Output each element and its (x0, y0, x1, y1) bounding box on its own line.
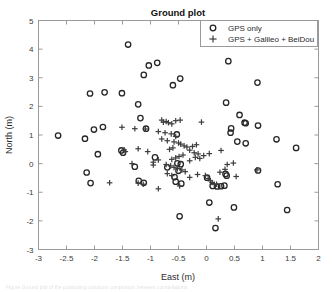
y-tick-label: -3 (26, 246, 34, 255)
x-tick-label: -2 (91, 254, 99, 263)
legend[interactable]: GPS only GPS + Galileo + BeiDou (201, 21, 318, 47)
y-tick-label: 2 (29, 102, 34, 111)
x-tick-label: -3 (35, 254, 43, 263)
x-tick-label: -1 (147, 254, 155, 263)
ground-plot-chart: Ground plot -3-2.5-2-1.5-1-0.500.511.52 … (0, 0, 333, 292)
y-tick-label: 1 (29, 131, 34, 140)
figure-caption-fragment: Figure Ground plot of the positioning so… (6, 284, 324, 290)
y-tick-label: -1 (26, 188, 34, 197)
x-tick-label: 1 (260, 254, 265, 263)
x-tick-label: 2 (316, 254, 321, 263)
x-tick-label: 0.5 (229, 254, 241, 263)
x-tick-label: -1.5 (116, 254, 130, 263)
page-title: Ground plot (151, 7, 206, 18)
x-tick-label: -2.5 (60, 254, 74, 263)
x-tick-label: 1.5 (285, 254, 297, 263)
legend-label: GPS + Galileo + BeiDou (228, 35, 314, 44)
y-tick-label: 0 (29, 160, 34, 169)
y-tick-label: 5 (29, 17, 34, 26)
x-axis-label: East (m) (161, 272, 195, 282)
x-tick-label: -0.5 (172, 254, 186, 263)
x-tick-label: 0 (204, 254, 209, 263)
y-axis-label: North (m) (4, 116, 14, 154)
figure-container: Ground plot -3-2.5-2-1.5-1-0.500.511.52 … (0, 0, 333, 292)
y-tick-label: 4 (29, 45, 34, 54)
y-tick-label: -2 (26, 217, 34, 226)
y-tick-label: 3 (29, 74, 34, 83)
legend-label: GPS only (228, 24, 262, 33)
